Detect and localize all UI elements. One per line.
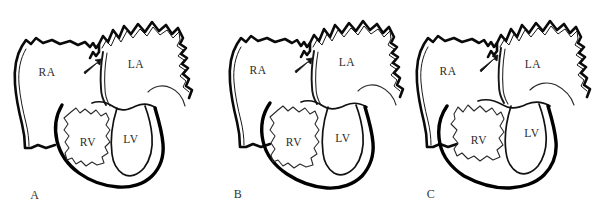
- panel-letter-b: B: [234, 187, 243, 201]
- label-right-atrium: RA: [439, 65, 456, 77]
- septum-arrow-icon: [295, 58, 312, 73]
- great-vessel-outline: [358, 85, 396, 105]
- interatrial-septum-edge: [503, 49, 508, 104]
- heart-diagram-panel-a: RA LA RV LV A: [0, 0, 205, 222]
- left-atrium-wall-inner: [500, 26, 587, 91]
- label-left-atrium: LA: [128, 58, 145, 70]
- interatrial-septum-edge: [105, 53, 110, 106]
- label-right-ventricle: RV: [286, 136, 302, 148]
- left-atrium-wall-inner: [313, 26, 400, 91]
- panel-letter-a: A: [30, 188, 39, 202]
- label-left-atrium: LA: [339, 56, 356, 68]
- interatrial-septum: [101, 52, 106, 105]
- septum-arrow-icon: [84, 59, 101, 74]
- label-left-ventricle: LV: [123, 133, 139, 145]
- panel-c-drawing: RA LA RV LV C: [417, 21, 590, 201]
- label-left-atrium: LA: [525, 58, 542, 70]
- interatrial-septum-edge: [316, 52, 321, 105]
- left-ventricle-outer-wall: [56, 105, 164, 187]
- panel-letter-c: C: [427, 187, 436, 201]
- label-left-ventricle: LV: [335, 132, 351, 144]
- left-atrium-wall-inner: [102, 27, 189, 92]
- heart-diagram-panel-c: RA LA RV LV C: [400, 0, 605, 222]
- interatrial-septum: [499, 48, 504, 103]
- label-right-ventricle: RV: [80, 136, 96, 148]
- figure-root: RA LA RV LV A: [0, 0, 605, 222]
- panel-b-drawing: RA LA RV LV B: [230, 21, 403, 201]
- great-vessel-outline: [148, 86, 185, 106]
- label-left-ventricle: LV: [524, 127, 540, 139]
- right-ventricle-cavity: [451, 105, 504, 161]
- left-ventricle-outer-wall: [439, 106, 556, 188]
- panel-a-drawing: RA LA RV LV A: [15, 22, 192, 202]
- heart-diagram-panel-b: RA LA RV LV B: [200, 0, 405, 222]
- interatrial-septum: [312, 51, 317, 104]
- label-right-atrium: RA: [249, 64, 266, 76]
- label-right-ventricle: RV: [471, 134, 487, 146]
- label-right-atrium: RA: [38, 66, 55, 78]
